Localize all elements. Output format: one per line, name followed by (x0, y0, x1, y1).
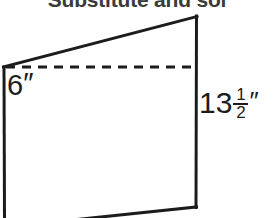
shape-top-slant-edge (4, 17, 198, 68)
side-length-label: 13 1 2 ″ (199, 86, 258, 120)
height-label: 6″ (7, 68, 32, 100)
side-length-fraction: 1 2 (233, 87, 248, 121)
figure-canvas: Substitute and sol 6″ 13 1 2 ″ (0, 0, 274, 218)
shape-right-edge (196, 16, 197, 208)
fraction-denominator: 2 (234, 105, 247, 121)
inch-mark-icon: ″ (23, 67, 32, 99)
shape-bottom-slant-edge (72, 207, 197, 218)
fraction-numerator: 1 (234, 87, 247, 103)
height-label-value: 6 (7, 69, 23, 101)
inch-mark-icon: ″ (249, 86, 257, 116)
side-length-whole: 13 (199, 86, 232, 120)
shape-left-edge (4, 67, 5, 218)
